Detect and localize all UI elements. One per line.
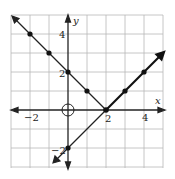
x-axis-label: x [155,95,161,106]
y-axis-label: y [72,15,79,26]
x-axis-left-arrow-icon [11,108,18,113]
data-point [84,88,89,93]
data-point [141,69,146,74]
data-point [46,50,51,55]
y-axis-up-arrow-icon [66,15,71,22]
graph-figure: y x −2 2 4 4 2 −2 [0,0,175,179]
x-tick-label: −2 [24,112,39,123]
x-tick-label: 4 [142,112,148,123]
data-point [27,31,32,36]
x-tick-label: 2 [105,113,111,124]
x-axis-right-arrow-icon [158,108,165,113]
y-axis-down-arrow-icon [66,162,71,169]
series-increasing-line [53,110,106,163]
data-point [122,88,127,93]
data-point [65,69,70,74]
y-tick-label: −2 [51,145,66,156]
data-point [103,107,109,113]
data-point [65,145,70,150]
y-tick-label: 4 [59,29,65,40]
y-tick-label: 2 [59,68,65,79]
